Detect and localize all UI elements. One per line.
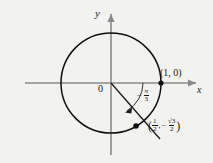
unit-circle-figure bbox=[0, 0, 213, 163]
point-marker-terminal bbox=[133, 123, 139, 129]
angle-denominator: 3 bbox=[144, 95, 150, 103]
angle-fraction: π 3 bbox=[144, 88, 150, 103]
angle-arc-arrowhead bbox=[125, 108, 132, 114]
point-label-terminal: ( 1 2 , − √3 2 ) bbox=[148, 118, 180, 133]
coord-y-fraction: √3 2 bbox=[167, 118, 176, 133]
coord-close-paren: ) bbox=[176, 120, 180, 132]
point-label-one-zero: (1, 0) bbox=[160, 68, 182, 78]
origin-label: 0 bbox=[98, 84, 103, 94]
coord-y-denominator: 2 bbox=[169, 125, 175, 133]
angle-numerator: π bbox=[144, 88, 150, 95]
angle-minus-sign: − bbox=[137, 92, 143, 100]
point-marker-one-zero bbox=[158, 80, 163, 85]
y-axis-arrowhead bbox=[107, 14, 114, 22]
coord-y-numerator: √3 bbox=[167, 118, 176, 125]
x-axis-arrowhead bbox=[188, 79, 196, 86]
angle-label: − π 3 bbox=[137, 88, 149, 103]
x-axis-label: x bbox=[197, 85, 201, 95]
y-axis-label: y bbox=[95, 8, 100, 19]
